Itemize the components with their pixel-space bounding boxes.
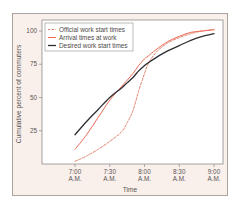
x-tick-sublabel: A.M. (207, 175, 220, 182)
y-tick-label: 100 (26, 27, 37, 34)
legend-label: Desired work start times (59, 42, 128, 49)
y-axis-title: Cumulative percent of commuters (15, 44, 23, 143)
legend-label: Official work start times (59, 26, 125, 33)
x-tick-sublabel: A.M. (138, 175, 151, 182)
x-tick-label: 7:30 (104, 168, 117, 175)
x-tick-label: 8:00 (138, 168, 151, 175)
x-axis-title: Time (123, 186, 138, 193)
x-tick-label: 7:00 (69, 168, 82, 175)
x-tick-label: 9:00 (208, 168, 221, 175)
line-chart: 2550751007:00A.M.7:30A.M.8:00A.M.8:30A.M… (0, 0, 243, 209)
y-tick-label: 25 (30, 127, 38, 134)
x-tick-sublabel: A.M. (68, 175, 81, 182)
x-tick-sublabel: A.M. (173, 175, 186, 182)
x-tick-label: 8:30 (173, 168, 186, 175)
y-tick-label: 50 (30, 94, 38, 101)
legend: Official work start timesArrival times a… (45, 23, 133, 51)
x-tick-sublabel: A.M. (103, 175, 116, 182)
legend-label: Arrival times at work (59, 34, 117, 41)
y-tick-label: 75 (30, 60, 38, 67)
